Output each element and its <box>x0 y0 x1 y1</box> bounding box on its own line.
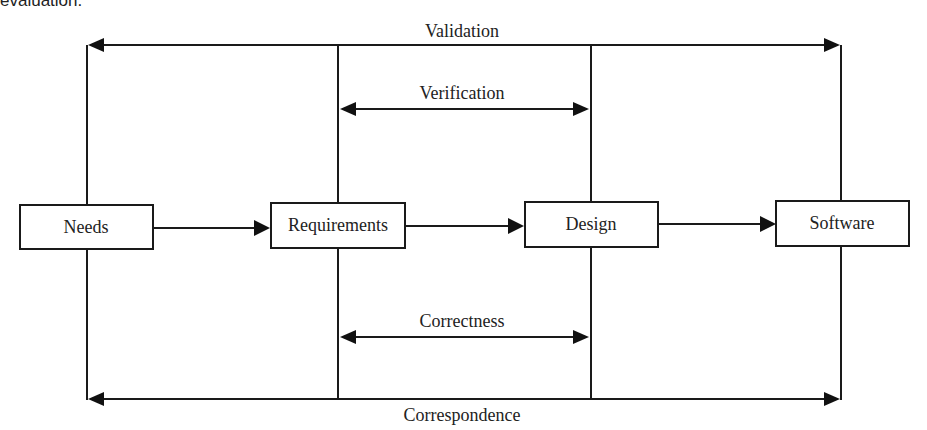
process-diagram: Validation Verification Correctness Corr… <box>0 0 927 430</box>
design-label: Design <box>566 214 617 234</box>
correctness-arrow <box>340 330 589 344</box>
arrowhead-left-icon <box>88 392 104 406</box>
arrowhead-right-icon <box>508 218 524 234</box>
arrowhead-right-icon <box>254 220 270 236</box>
arrowhead-right-icon <box>573 102 589 116</box>
arrowhead-left-icon <box>340 330 356 344</box>
correctness-label: Correctness <box>420 311 505 331</box>
needs-label: Needs <box>64 217 109 237</box>
flow-arrow-needs-requirements <box>153 220 270 236</box>
software-label: Software <box>810 213 875 233</box>
arrowhead-left-icon <box>88 38 104 52</box>
arrowhead-right-icon <box>824 392 840 406</box>
arrowhead-left-icon <box>340 102 356 116</box>
verification-label: Verification <box>420 83 505 103</box>
node-software: Software <box>776 201 909 246</box>
arrowhead-right-icon <box>573 330 589 344</box>
node-design: Design <box>525 202 658 247</box>
node-needs: Needs <box>20 205 153 249</box>
validation-label: Validation <box>425 21 499 41</box>
verification-arrow <box>340 102 589 116</box>
correspondence-arrow <box>88 392 840 406</box>
correspondence-label: Correspondence <box>404 405 521 425</box>
flow-arrow-requirements-design <box>405 218 524 234</box>
arrowhead-right-icon <box>824 38 840 52</box>
requirements-label: Requirements <box>288 215 388 235</box>
flow-arrow-design-software <box>658 216 776 232</box>
arrowhead-right-icon <box>760 216 776 232</box>
node-requirements: Requirements <box>271 203 405 248</box>
